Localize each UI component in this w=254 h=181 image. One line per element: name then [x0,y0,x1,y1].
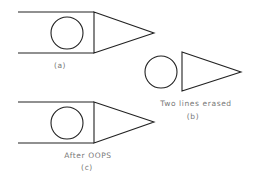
diagram-svg: (a) Two lines erased (b) After OOPS (c) [0,0,254,181]
figure-c-caption: After OOPS [64,151,111,160]
figure-b-circle [145,56,177,88]
figure-c-circle [51,107,83,139]
figure-a-label: (a) [54,61,66,70]
diagram-canvas: (a) Two lines erased (b) After OOPS (c) [0,0,254,181]
figure-b-triangle [182,52,241,91]
figure-c-triangle [94,102,154,143]
figure-a-circle [51,17,83,49]
figure-b: Two lines erased (b) [145,52,241,121]
figure-a-triangle [94,12,154,53]
figure-a: (a) [18,12,154,70]
figure-c-label: (c) [81,163,93,172]
figure-b-caption: Two lines erased [159,99,231,108]
figure-b-label: (b) [187,112,199,121]
figure-c: After OOPS (c) [18,102,154,172]
